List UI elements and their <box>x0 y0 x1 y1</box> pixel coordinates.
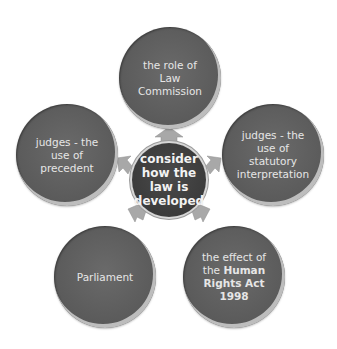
node-text: statutory <box>237 155 309 168</box>
center-text: developed <box>134 194 204 208</box>
node-text: interpretation <box>237 168 309 181</box>
node-precedent: judges - the use of precedent <box>16 104 118 206</box>
node-text: precedent <box>36 162 99 175</box>
center-text: how the <box>134 166 204 180</box>
node-text: judges - the <box>36 136 99 149</box>
node-text: Commission <box>131 85 209 98</box>
node-text: Parliament <box>77 271 133 284</box>
node-text: the effect of <box>202 251 266 264</box>
arrow-up-icon <box>155 127 183 143</box>
node-human-rights-act: the effect of the Human Rights Act 1998 <box>183 226 285 328</box>
law-development-diagram: the role of Law Commission judges - the … <box>0 0 337 349</box>
node-text: judges - the <box>237 129 309 142</box>
arrow-right-icon <box>206 156 221 174</box>
node-text-plain: the <box>203 264 224 276</box>
node-text: the role of Law <box>131 59 209 85</box>
node-parliament: Parliament <box>54 226 156 328</box>
node-text: use of <box>237 142 309 155</box>
node-law-commission: the role of Law Commission <box>119 27 221 129</box>
center-text: law is <box>134 180 204 194</box>
node-text-bold: Rights Act <box>202 277 266 290</box>
node-text: use of <box>36 149 99 162</box>
arrow-left-icon <box>117 156 132 174</box>
node-text-bold: Human <box>223 264 265 276</box>
center-text: consider <box>134 152 204 166</box>
node-text: the Human <box>202 264 266 277</box>
node-statutory-interpretation: judges - the use of statutory interpreta… <box>222 104 324 206</box>
center-node: consider how the law is developed <box>132 143 206 217</box>
node-text-bold: 1998 <box>202 290 266 303</box>
